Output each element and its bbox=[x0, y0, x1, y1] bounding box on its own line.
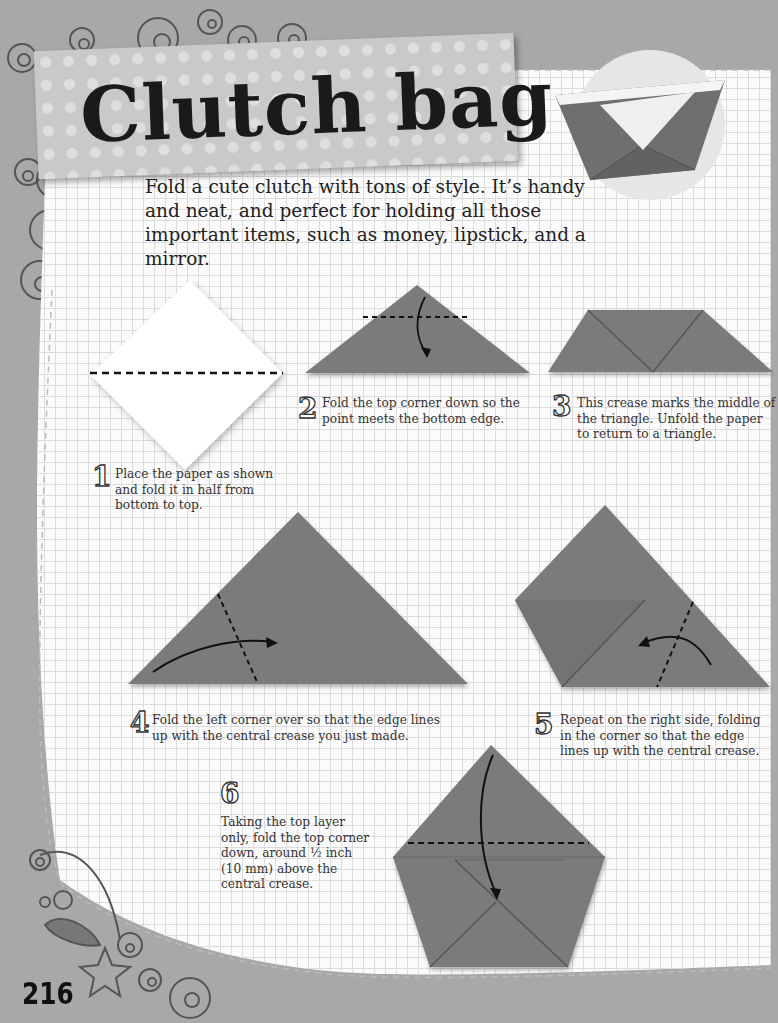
step-4-text: Fold the left corner over so that the ed… bbox=[152, 713, 452, 744]
step-3-text: This crease marks the middle of the tria… bbox=[577, 396, 777, 443]
step-4-number: 4 bbox=[130, 709, 149, 737]
step-4-diagram bbox=[128, 512, 473, 692]
step-1-text: Place the paper as shown and fold it in … bbox=[115, 467, 275, 514]
page-title: Clutch bag bbox=[78, 53, 554, 160]
step-2-text: Fold the top corner down so the point me… bbox=[322, 396, 532, 427]
step-5-diagram bbox=[515, 505, 775, 695]
intro-paragraph: Fold a cute clutch with tons of style. I… bbox=[145, 175, 615, 271]
step-6-text: Taking the top layer only, fold the top … bbox=[221, 815, 376, 893]
step-3-number: 3 bbox=[552, 393, 571, 421]
step-1-diagram bbox=[85, 270, 305, 500]
step-2-diagram bbox=[305, 285, 535, 375]
step-3-diagram bbox=[548, 310, 778, 380]
page-number: 216 bbox=[22, 975, 74, 1011]
step-6-diagram bbox=[393, 745, 613, 970]
step-5-number: 5 bbox=[534, 711, 553, 739]
step-2-number: 2 bbox=[298, 395, 317, 423]
step-6-number: 6 bbox=[220, 780, 239, 808]
step-1-number: 1 bbox=[92, 463, 111, 491]
